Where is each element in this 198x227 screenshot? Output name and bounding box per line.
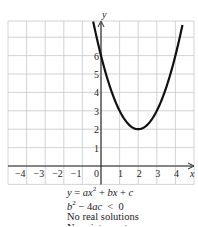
caption-text: + [96,187,107,198]
caption-text: -intercepts [87,222,131,227]
caption-text: = [72,187,83,198]
x-tick-label: −1 [71,168,82,179]
caption-text: + [117,187,128,198]
x-tick-label: −2 [52,168,63,179]
caption-intercepts: No x-intercepts [67,223,139,227]
x-tick-label: 3 [155,168,160,179]
y-axis-label: y [101,9,107,20]
caption-equation: y = ax2 + bx + c [67,184,139,198]
caption-text: bx [107,187,117,198]
x-tick-label: 4 [174,168,179,179]
caption-text: c [129,187,134,198]
y-tick-label: 6 [94,51,99,62]
caption-text: ax [83,187,93,198]
x-tick-label: −4 [15,168,26,179]
y-tick-label: 4 [94,87,99,98]
caption-text: ac [92,201,102,212]
x-tick-label: 1 [118,168,123,179]
axes [8,21,194,184]
caption-text: < 0 [102,201,124,212]
caption-text: − 4 [76,201,92,212]
y-tick-label: 1 [94,143,99,154]
x-axis-label: x [189,168,195,179]
chart-caption: y = ax2 + bx + c b2 − 4ac < 0 No real so… [67,184,139,226]
y-tick-label: 3 [94,106,99,117]
x-tick-label: 0 [94,168,99,179]
y-tick-label: 5 [94,69,99,80]
caption-text: No [67,222,82,227]
x-tick-label: −3 [34,168,45,179]
x-tick-label: 2 [137,168,142,179]
y-tick-label: 2 [94,124,99,135]
caption-discriminant: b2 − 4ac < 0 [67,198,139,212]
